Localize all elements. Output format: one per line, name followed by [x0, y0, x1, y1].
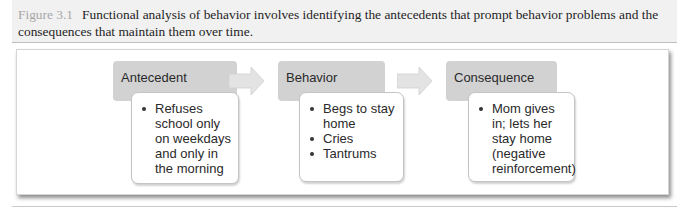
behavior-box: Begs to stay home Cries Tantrums [299, 92, 404, 182]
figure-label: Figure 3.1 [18, 7, 73, 22]
antecedent-box: Refuses school only on weekdays and only… [131, 92, 239, 184]
antecedent-title: Antecedent [121, 70, 187, 85]
right-arrow-icon [229, 67, 265, 95]
caption-text: Functional analysis of behavior involves… [18, 7, 658, 39]
right-arrow-icon [397, 67, 433, 95]
behavior-item: Tantrums [309, 146, 397, 161]
consequence-item: Mom gives in; lets her stay home (negati… [478, 101, 568, 176]
antecedent-item: Refuses school only on weekdays and only… [141, 101, 232, 176]
behavior-item: Cries [309, 131, 397, 146]
behavior-item: Begs to stay home [309, 101, 397, 131]
consequence-box: Mom gives in; lets her stay home (negati… [468, 92, 575, 182]
consequence-title: Consequence [454, 70, 534, 85]
behavior-title: Behavior [286, 70, 337, 85]
antecedent-list: Refuses school only on weekdays and only… [141, 101, 232, 176]
behavior-list: Begs to stay home Cries Tantrums [309, 101, 397, 161]
figure-caption: Figure 3.1Functional analysis of behavio… [18, 7, 668, 40]
consequence-list: Mom gives in; lets her stay home (negati… [478, 101, 568, 176]
bottom-rule [12, 206, 677, 207]
